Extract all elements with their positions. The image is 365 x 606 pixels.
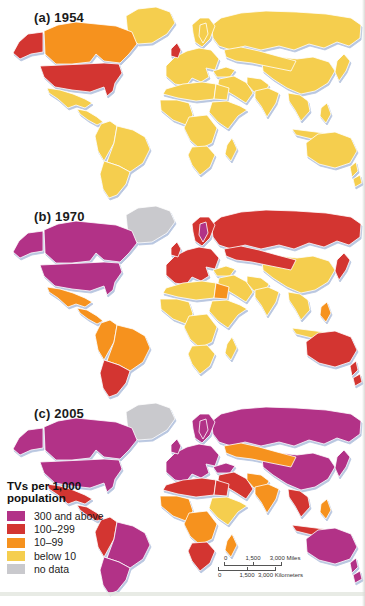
- region-turkey: [213, 463, 235, 473]
- region-africa-north: [163, 82, 216, 101]
- legend-item-300-and-above: 300 and above: [7, 511, 103, 521]
- page-scan-band: [0, 592, 365, 596]
- region-australia: [306, 331, 357, 367]
- legend-swatch-purple: [7, 511, 25, 521]
- region-alaska: [13, 231, 43, 258]
- legend-item-below-10: below 10: [7, 551, 103, 561]
- legend-label: 300 and above: [34, 511, 103, 522]
- region-se-asia: [288, 93, 310, 121]
- legend-title-line2: population: [7, 492, 103, 504]
- region-australia: [306, 132, 357, 168]
- region-canada: [44, 221, 137, 263]
- legend-swatch-orange: [7, 538, 25, 548]
- region-africa-north: [163, 478, 216, 497]
- panel-label-1954: (a) 1954: [34, 10, 84, 25]
- scale-miles-labels: 0 1,500 3,000 Miles: [224, 555, 282, 562]
- region-central-asia: [224, 246, 296, 270]
- region-philippines: [320, 302, 331, 322]
- map-panel-1954: (a) 1954: [0, 4, 365, 202]
- region-madagascar: [225, 534, 237, 557]
- scale-km-0: 0: [218, 572, 221, 578]
- tv-ownership-world-maps-figure: (a) 1954 (b) 1970 (c) 2005 TVs per 1,000…: [0, 0, 365, 606]
- legend-title-line1: TVs per 1,000: [7, 480, 103, 492]
- panel-label-1970: (b) 1970: [34, 209, 85, 224]
- region-russia: [211, 11, 361, 50]
- region-australia: [306, 528, 357, 564]
- region-new-zealand: [350, 162, 362, 187]
- legend-swatch-gray: [7, 564, 25, 574]
- region-africa-south: [188, 345, 215, 374]
- legend-item-no-data: no data: [7, 564, 103, 574]
- region-madagascar: [225, 337, 237, 360]
- region-central-asia: [224, 443, 296, 467]
- region-turkey: [213, 67, 235, 77]
- region-africa-central: [184, 314, 217, 348]
- region-africa-central: [184, 511, 217, 545]
- region-central-asia: [224, 47, 296, 71]
- region-alaska: [13, 32, 43, 59]
- region-turkey: [213, 266, 235, 276]
- region-africa-south: [188, 146, 215, 175]
- scale-km-bar: [218, 567, 276, 571]
- scale-miles-end: 3,000 Miles: [270, 555, 301, 561]
- region-india: [255, 287, 279, 316]
- region-russia: [211, 210, 361, 249]
- legend-swatch-yellow: [7, 551, 25, 561]
- region-central-america: [77, 109, 103, 125]
- legend-swatch-red: [7, 524, 25, 534]
- region-new-zealand: [350, 361, 362, 386]
- legend-label: 100–299: [34, 524, 75, 535]
- legend-label: 10–99: [34, 537, 63, 548]
- region-madagascar: [225, 138, 237, 161]
- region-se-asia: [288, 292, 310, 320]
- scale-bar: 0 1,500 3,000 Miles 0 1,500 3,000 Kilome…: [224, 555, 282, 579]
- region-japan: [335, 253, 350, 280]
- scale-km-mid: 1,500: [239, 572, 254, 578]
- region-philippines: [320, 499, 331, 519]
- region-canada: [44, 418, 137, 460]
- region-new-zealand: [350, 558, 362, 583]
- scale-miles-bar: [224, 562, 282, 566]
- map-panel-1970: (b) 1970: [0, 203, 365, 401]
- scale-miles-mid: 1,500: [245, 555, 260, 561]
- region-central-america: [77, 308, 103, 324]
- region-canada: [44, 22, 137, 64]
- region-alaska: [13, 428, 43, 455]
- scale-miles-0: 0: [224, 555, 227, 561]
- region-india: [255, 484, 279, 513]
- legend-label: below 10: [34, 551, 76, 562]
- legend-label: no data: [34, 564, 69, 575]
- region-africa-central: [184, 115, 217, 149]
- region-india: [255, 88, 279, 117]
- legend-item-10-99: 10–99: [7, 538, 103, 548]
- region-philippines: [320, 103, 331, 123]
- legend: TVs per 1,000 population 300 and above 1…: [7, 480, 103, 578]
- scale-km-labels: 0 1,500 3,000 Kilometers: [218, 572, 276, 579]
- scale-km-end: 3,000 Kilometers: [258, 572, 303, 578]
- world-map-1954: [0, 4, 365, 202]
- legend-item-100-299: 100–299: [7, 524, 103, 534]
- world-map-1970: [0, 203, 365, 401]
- panel-label-2005: (c) 2005: [34, 406, 84, 421]
- region-se-asia: [288, 489, 310, 517]
- region-japan: [335, 450, 350, 477]
- region-africa-north: [163, 281, 216, 300]
- region-africa-south: [188, 542, 215, 571]
- legend-title: TVs per 1,000 population: [7, 480, 103, 505]
- region-japan: [335, 54, 350, 81]
- region-russia: [211, 407, 361, 446]
